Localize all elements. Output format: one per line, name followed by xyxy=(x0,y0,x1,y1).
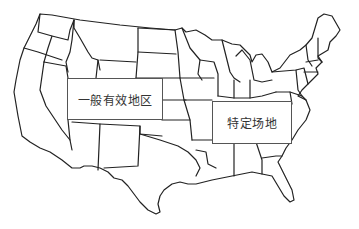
specific-site-label: 特定场地 xyxy=(212,101,292,144)
specific-site-label-text: 特定场地 xyxy=(227,114,277,131)
general-area-label-text: 一般有效地区 xyxy=(78,91,153,108)
us-states-outline-map xyxy=(0,0,359,229)
us-map-figure: 一般有效地区 特定场地 xyxy=(0,0,359,229)
general-area-label: 一般有效地区 xyxy=(67,78,163,120)
